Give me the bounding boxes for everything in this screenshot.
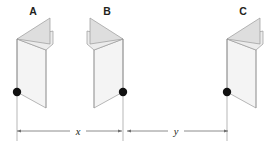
pivot-dot-a <box>13 88 21 96</box>
dimension-y: y <box>127 126 228 137</box>
figure-container: x y A B C <box>0 0 269 143</box>
pivot-dot-b <box>119 88 127 96</box>
dimension-x-label: x <box>75 126 81 137</box>
object-c-front-panel <box>227 39 256 108</box>
object-a-top-flap <box>17 18 50 44</box>
object-b-top-flap <box>90 18 123 44</box>
object-b-front-panel <box>94 39 123 108</box>
object-a <box>17 18 53 108</box>
figure-canvas: x y A B C <box>0 0 269 143</box>
object-label-c: C <box>239 5 247 17</box>
object-b <box>87 18 123 108</box>
object-a-front-panel <box>17 39 46 108</box>
object-c <box>227 18 263 108</box>
object-label-a: A <box>29 5 37 17</box>
pivot-dot-c <box>223 88 231 96</box>
dimension-x: x <box>17 126 122 137</box>
object-label-b: B <box>103 5 111 17</box>
dimension-y-label: y <box>173 126 179 137</box>
object-c-top-flap <box>227 18 260 44</box>
